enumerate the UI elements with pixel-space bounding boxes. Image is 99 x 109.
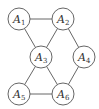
nodes-layer: A1A2A3A4A5A6 bbox=[8, 8, 95, 105]
node-a3: A3 bbox=[30, 46, 52, 68]
node-a5: A5 bbox=[8, 83, 30, 105]
node-a6: A6 bbox=[52, 83, 74, 105]
node-a4: A4 bbox=[73, 46, 95, 68]
node-a1: A1 bbox=[8, 8, 30, 30]
graph-diagram: A1A2A3A4A5A6 bbox=[0, 0, 99, 109]
node-a2: A2 bbox=[52, 8, 74, 30]
